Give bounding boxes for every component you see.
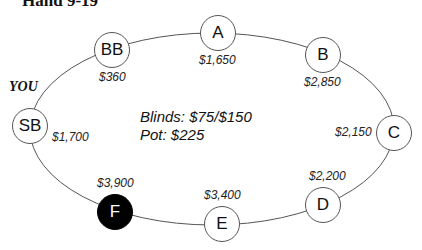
seat-a: A (200, 15, 236, 51)
seat-c: C (376, 115, 412, 151)
stack-sb: $1,700 (52, 130, 89, 144)
seat-b: B (305, 37, 341, 73)
hero-label: YOU (9, 79, 38, 95)
stack-e: $3,400 (204, 188, 241, 202)
stack-f: $3,900 (97, 176, 134, 190)
stack-a: $1,650 (199, 53, 236, 67)
seat-d: D (305, 187, 341, 223)
seat-bb: BB (94, 32, 130, 68)
stack-d: $2,200 (309, 169, 346, 183)
blinds-text: Blinds: $75/$150 (140, 108, 252, 126)
seat-e: E (204, 206, 240, 242)
pot-text: Pot: $225 (140, 126, 252, 144)
seat-sb-hero: SB (12, 108, 48, 144)
stack-b: $2,850 (304, 75, 341, 89)
stack-c: $2,150 (335, 125, 372, 139)
hand-info: Blinds: $75/$150 Pot: $225 (140, 108, 252, 144)
seat-f-active: F (97, 194, 133, 230)
stack-bb: $360 (99, 70, 126, 84)
